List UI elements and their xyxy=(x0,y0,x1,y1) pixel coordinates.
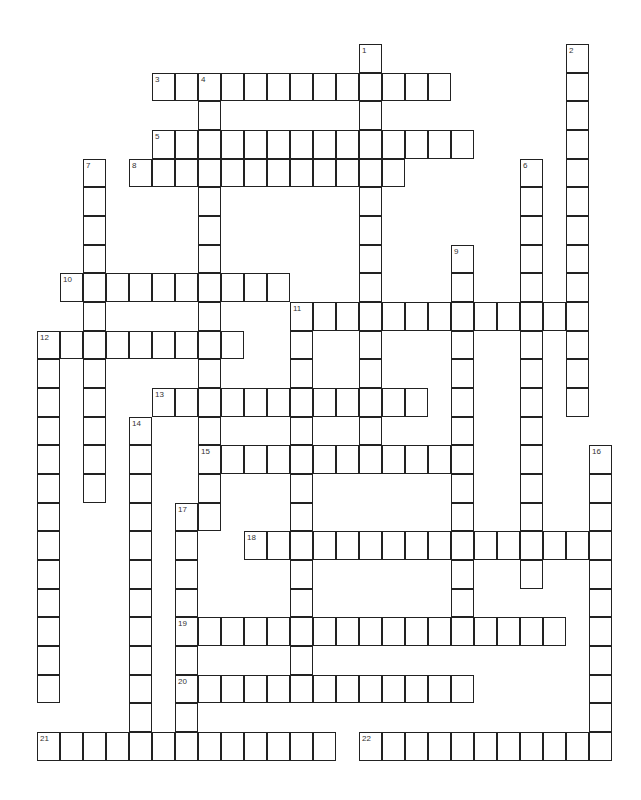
grid-cell[interactable] xyxy=(175,646,198,675)
grid-cell[interactable] xyxy=(382,302,405,331)
grid-cell[interactable] xyxy=(267,732,290,761)
grid-cell[interactable] xyxy=(129,331,152,360)
grid-cell[interactable] xyxy=(474,531,497,560)
grid-cell[interactable] xyxy=(129,646,152,675)
grid-cell[interactable] xyxy=(175,703,198,732)
grid-cell[interactable] xyxy=(290,560,313,589)
grid-cell[interactable] xyxy=(290,732,313,761)
grid-cell[interactable] xyxy=(336,388,359,417)
grid-cell[interactable] xyxy=(451,617,474,646)
grid-cell[interactable] xyxy=(83,273,106,302)
grid-cell[interactable]: 19 xyxy=(175,617,198,646)
grid-cell[interactable] xyxy=(451,732,474,761)
grid-cell[interactable] xyxy=(198,359,221,388)
grid-cell[interactable] xyxy=(290,474,313,503)
grid-cell[interactable] xyxy=(428,732,451,761)
grid-cell[interactable] xyxy=(267,73,290,102)
grid-cell[interactable] xyxy=(313,130,336,159)
grid-cell[interactable] xyxy=(244,273,267,302)
grid-cell[interactable] xyxy=(175,331,198,360)
grid-cell[interactable] xyxy=(313,732,336,761)
grid-cell[interactable] xyxy=(244,130,267,159)
grid-cell[interactable] xyxy=(198,474,221,503)
grid-cell[interactable] xyxy=(198,101,221,130)
grid-cell[interactable] xyxy=(589,675,612,704)
grid-cell[interactable] xyxy=(566,216,589,245)
grid-cell[interactable] xyxy=(198,388,221,417)
grid-cell[interactable] xyxy=(405,388,428,417)
grid-cell[interactable] xyxy=(290,359,313,388)
grid-cell[interactable] xyxy=(566,531,589,560)
grid-cell[interactable] xyxy=(566,388,589,417)
grid-cell[interactable] xyxy=(520,331,543,360)
grid-cell[interactable] xyxy=(382,675,405,704)
grid-cell[interactable] xyxy=(313,159,336,188)
grid-cell[interactable] xyxy=(520,245,543,274)
grid-cell[interactable] xyxy=(405,617,428,646)
grid-cell[interactable]: 6 xyxy=(520,159,543,188)
grid-cell[interactable] xyxy=(175,130,198,159)
grid-cell[interactable] xyxy=(359,101,382,130)
grid-cell[interactable] xyxy=(359,130,382,159)
grid-cell[interactable] xyxy=(589,589,612,618)
grid-cell[interactable] xyxy=(83,216,106,245)
grid-cell[interactable] xyxy=(313,445,336,474)
grid-cell[interactable] xyxy=(198,130,221,159)
grid-cell[interactable] xyxy=(221,732,244,761)
grid-cell[interactable] xyxy=(428,531,451,560)
grid-cell[interactable] xyxy=(129,675,152,704)
grid-cell[interactable]: 7 xyxy=(83,159,106,188)
grid-cell[interactable] xyxy=(451,302,474,331)
grid-cell[interactable] xyxy=(290,646,313,675)
grid-cell[interactable] xyxy=(336,675,359,704)
grid-cell[interactable] xyxy=(566,359,589,388)
grid-cell[interactable] xyxy=(451,388,474,417)
grid-cell[interactable] xyxy=(359,417,382,446)
grid-cell[interactable] xyxy=(382,732,405,761)
grid-cell[interactable] xyxy=(198,159,221,188)
grid-cell[interactable] xyxy=(520,273,543,302)
grid-cell[interactable] xyxy=(129,273,152,302)
grid-cell[interactable] xyxy=(566,130,589,159)
grid-cell[interactable] xyxy=(221,130,244,159)
grid-cell[interactable] xyxy=(244,617,267,646)
grid-cell[interactable] xyxy=(129,474,152,503)
grid-cell[interactable] xyxy=(336,73,359,102)
grid-cell[interactable] xyxy=(543,531,566,560)
grid-cell[interactable] xyxy=(244,73,267,102)
grid-cell[interactable] xyxy=(451,531,474,560)
grid-cell[interactable] xyxy=(451,474,474,503)
grid-cell[interactable] xyxy=(589,617,612,646)
grid-cell[interactable] xyxy=(589,732,612,761)
grid-cell[interactable] xyxy=(37,646,60,675)
grid-cell[interactable] xyxy=(359,331,382,360)
grid-cell[interactable] xyxy=(382,73,405,102)
grid-cell[interactable] xyxy=(382,531,405,560)
grid-cell[interactable]: 21 xyxy=(37,732,60,761)
grid-cell[interactable]: 15 xyxy=(198,445,221,474)
grid-cell[interactable] xyxy=(405,302,428,331)
grid-cell[interactable] xyxy=(152,331,175,360)
grid-cell[interactable] xyxy=(589,560,612,589)
grid-cell[interactable] xyxy=(221,331,244,360)
grid-cell[interactable] xyxy=(290,617,313,646)
grid-cell[interactable] xyxy=(566,159,589,188)
grid-cell[interactable] xyxy=(520,187,543,216)
grid-cell[interactable] xyxy=(221,73,244,102)
grid-cell[interactable] xyxy=(198,273,221,302)
grid-cell[interactable]: 4 xyxy=(198,73,221,102)
grid-cell[interactable] xyxy=(37,617,60,646)
grid-cell[interactable] xyxy=(129,732,152,761)
grid-cell[interactable]: 5 xyxy=(152,130,175,159)
grid-cell[interactable] xyxy=(359,531,382,560)
grid-cell[interactable] xyxy=(175,388,198,417)
grid-cell[interactable] xyxy=(359,617,382,646)
grid-cell[interactable]: 22 xyxy=(359,732,382,761)
grid-cell[interactable] xyxy=(106,732,129,761)
grid-cell[interactable] xyxy=(359,388,382,417)
grid-cell[interactable] xyxy=(152,159,175,188)
grid-cell[interactable] xyxy=(175,732,198,761)
grid-cell[interactable] xyxy=(451,359,474,388)
grid-cell[interactable] xyxy=(198,617,221,646)
grid-cell[interactable] xyxy=(221,445,244,474)
